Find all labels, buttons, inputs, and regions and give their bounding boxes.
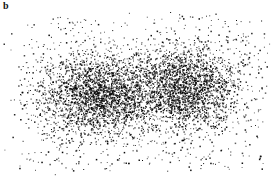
scatter-plot <box>0 0 272 179</box>
